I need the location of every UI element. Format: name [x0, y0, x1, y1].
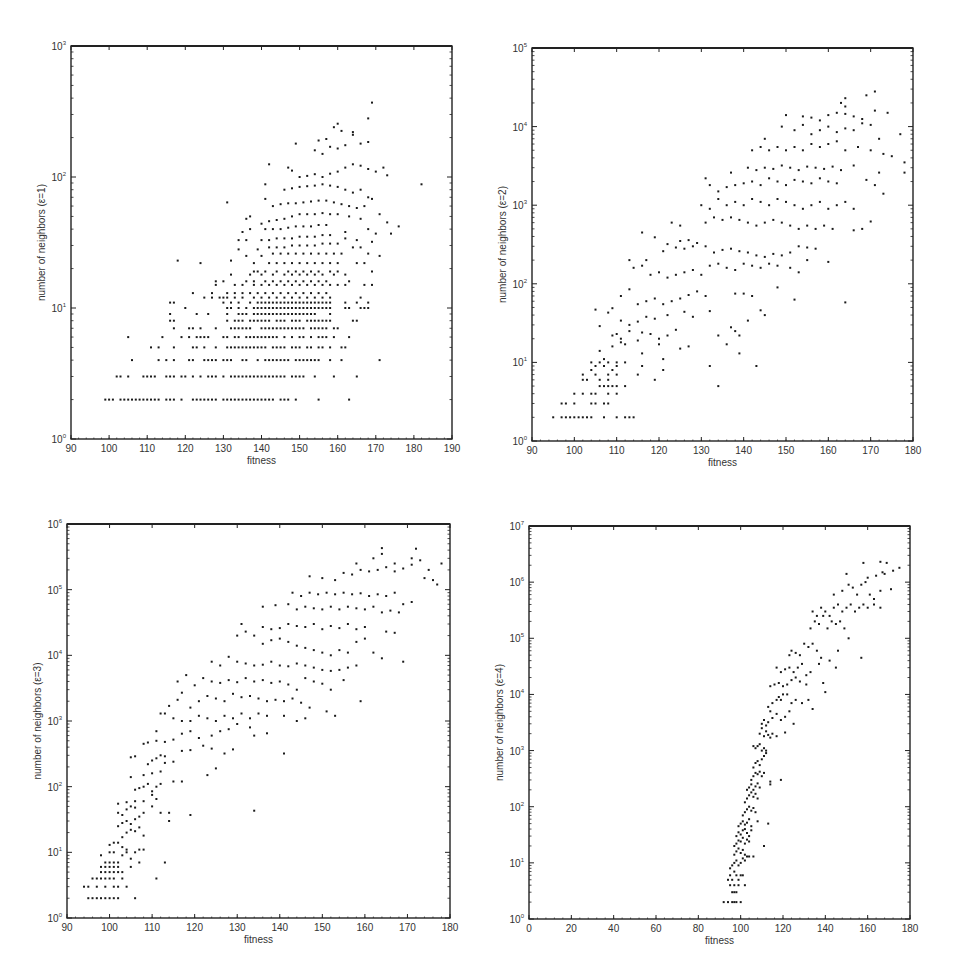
data-point [296, 689, 298, 691]
data-point [245, 218, 247, 220]
data-point [135, 399, 137, 401]
data-point [776, 699, 778, 701]
data-point [304, 626, 306, 628]
data-point [322, 302, 324, 304]
data-point [875, 575, 877, 577]
data-point [113, 886, 115, 888]
data-point [368, 570, 370, 572]
data-point [295, 292, 297, 294]
data-point [878, 138, 880, 140]
data-point [709, 265, 711, 267]
data-point [279, 627, 281, 629]
data-point [257, 271, 259, 273]
data-point [771, 702, 773, 704]
data-point [185, 674, 187, 676]
data-point [390, 233, 392, 235]
data-point [117, 862, 119, 864]
data-point [763, 735, 765, 737]
data-point [117, 842, 119, 844]
data-point [280, 292, 282, 294]
data-point [276, 320, 278, 322]
data-point [822, 615, 824, 617]
data-point [746, 839, 748, 841]
y-tick-label: 104 [510, 688, 525, 700]
data-point [819, 146, 821, 148]
data-point [329, 146, 331, 148]
data-point [763, 719, 765, 721]
data-point [705, 222, 707, 224]
data-point [862, 604, 864, 606]
data-point [261, 327, 263, 329]
data-point [733, 891, 735, 893]
data-point [280, 346, 282, 348]
data-point [337, 243, 339, 245]
y-tick-label: 102 [52, 171, 67, 183]
data-point [138, 787, 140, 789]
data-point [375, 233, 377, 235]
data-point [752, 796, 754, 798]
y-tick-label: 105 [513, 42, 528, 54]
data-point [318, 302, 320, 304]
data-point [165, 359, 167, 361]
data-point [767, 823, 769, 825]
data-point [215, 327, 217, 329]
data-point [742, 857, 744, 859]
data-point [130, 829, 132, 831]
data-point [143, 849, 145, 851]
data-point [109, 878, 111, 880]
data-point [283, 297, 285, 299]
data-point [599, 325, 601, 327]
data-point [228, 679, 230, 681]
data-point [200, 262, 202, 264]
data-point [322, 212, 324, 214]
data-point [367, 228, 369, 230]
data-point [329, 271, 331, 273]
data-point [253, 681, 255, 683]
data-point [321, 683, 323, 685]
data-point [337, 271, 339, 273]
data-point [752, 807, 754, 809]
data-point [287, 307, 289, 309]
data-point [738, 825, 740, 827]
data-point [742, 820, 744, 822]
data-point [755, 747, 757, 749]
data-point [348, 307, 350, 309]
data-point [662, 358, 664, 360]
data-point [249, 228, 251, 230]
data-point [344, 307, 346, 309]
plot-area [67, 524, 450, 918]
data-point [561, 416, 563, 418]
data-point [168, 812, 170, 814]
data-point [853, 229, 855, 231]
data-point [355, 665, 357, 667]
data-point [287, 167, 289, 169]
data-point [189, 730, 191, 732]
data-point [415, 548, 417, 550]
data-point [761, 727, 763, 729]
data-point [398, 611, 400, 613]
data-point [738, 879, 740, 881]
data-point [121, 878, 123, 880]
data-point [234, 376, 236, 378]
data-point [100, 897, 102, 899]
data-point [228, 656, 230, 658]
data-point [819, 177, 821, 179]
data-point [356, 376, 358, 378]
data-point [253, 735, 255, 737]
data-point [352, 163, 354, 165]
data-point [776, 713, 778, 715]
data-point [385, 566, 387, 568]
data-point [865, 581, 867, 583]
data-point [599, 385, 601, 387]
data-point [287, 292, 289, 294]
data-point [117, 897, 119, 899]
data-point [165, 376, 167, 378]
data-point [846, 573, 848, 575]
data-point [283, 376, 285, 378]
data-point [751, 265, 753, 267]
data-point [245, 663, 247, 665]
data-point [272, 292, 274, 294]
data-point [264, 359, 266, 361]
data-point [628, 416, 630, 418]
data-point [143, 774, 145, 776]
